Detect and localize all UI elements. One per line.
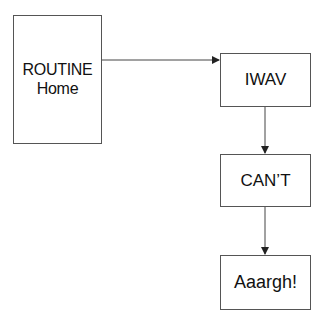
node-routine-line-1: ROUTINE — [23, 61, 93, 79]
node-cant: CAN’T — [220, 154, 311, 207]
node-routine-home: ROUTINE Home — [13, 15, 102, 144]
node-iwav-label: IWAV — [245, 70, 287, 90]
node-routine-line-2: Home — [37, 80, 78, 98]
node-iwav: IWAV — [220, 53, 311, 107]
node-aaargh: Aaargh! — [220, 255, 311, 310]
node-cant-label: CAN’T — [240, 171, 290, 191]
node-aaargh-label: Aaargh! — [234, 272, 297, 293]
